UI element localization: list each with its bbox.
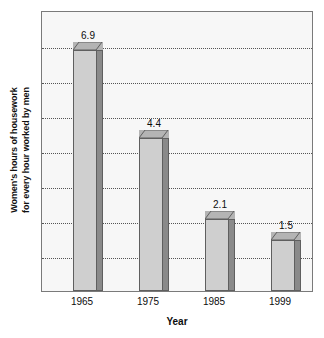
bar-top-face-1975	[139, 130, 169, 138]
bar-front-face-1985	[205, 219, 229, 291]
bar-1975[interactable]	[139, 130, 169, 291]
bar-top-face-1965	[73, 42, 103, 50]
bar-side-face-1965	[96, 50, 103, 291]
bar-1999[interactable]	[271, 232, 301, 291]
bar-front-face-1975	[139, 138, 163, 291]
bar-side-face-1975	[162, 138, 169, 291]
plot-area: 6.9 4.4 2.1	[41, 11, 313, 292]
bar-value-1965: 6.9	[68, 30, 108, 41]
bar-1965[interactable]	[73, 42, 103, 291]
bar-value-1985: 2.1	[200, 199, 240, 210]
bar-top-face-1985	[205, 211, 235, 219]
bar-front-face-1965	[73, 50, 97, 291]
bar-side-face-1985	[228, 219, 235, 291]
y-axis-title-line-2: for every hour worked by men	[20, 87, 32, 213]
x-axis-title: Year	[41, 316, 313, 327]
bar-value-1999: 1.5	[266, 220, 306, 231]
x-tick-label-1985: 1985	[184, 296, 244, 307]
bar-chart-figure: Women's hours of housework for every hou…	[0, 0, 324, 338]
bar-top-face-1999	[271, 232, 301, 240]
y-axis-title: Women's hours of housework for every hou…	[0, 0, 40, 300]
x-tick-label-1975: 1975	[118, 296, 178, 307]
bar-value-1975: 4.4	[134, 118, 174, 129]
x-tick-label-1965: 1965	[52, 296, 112, 307]
x-tick-label-1999: 1999	[250, 296, 310, 307]
bar-side-face-1999	[294, 240, 301, 291]
y-axis-title-line-1: Women's hours of housework	[8, 87, 20, 213]
bar-1985[interactable]	[205, 211, 235, 291]
bar-front-face-1999	[271, 240, 295, 291]
